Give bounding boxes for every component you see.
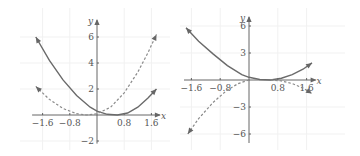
x-tick-label: −0.8 bbox=[59, 118, 81, 128]
y-tick-label: −3 bbox=[233, 102, 247, 112]
left-graph: xy−1.6−0.80.81.6642−2 bbox=[20, 8, 170, 150]
y-tick-label: −6 bbox=[233, 129, 247, 139]
y-tick-label: 6 bbox=[240, 21, 246, 31]
y-axis-arrow-icon bbox=[94, 19, 99, 25]
x-axis-label: x bbox=[161, 111, 166, 121]
y-axis-arrow-icon bbox=[246, 16, 251, 22]
right-graph: xy−1.6−0.80.81.663−3−6 bbox=[180, 8, 345, 150]
y-tick-label: 4 bbox=[88, 58, 94, 68]
x-axis-label: x bbox=[317, 76, 322, 86]
series-dashed-curve bbox=[36, 34, 157, 115]
chart-canvas: xy−1.6−0.80.81.6642−2 xy−1.6−0.80.81.663… bbox=[0, 0, 360, 156]
x-tick-label: 0.8 bbox=[117, 118, 132, 128]
y-tick-label: 6 bbox=[88, 32, 94, 42]
x-tick-label: −1.6 bbox=[180, 83, 202, 93]
y-axis-label: y bbox=[87, 16, 94, 26]
x-tick-label: −1.6 bbox=[32, 118, 54, 128]
series-dashed-end-arrow-icon bbox=[152, 34, 157, 41]
series-dashed-left-start-arrow-icon bbox=[188, 128, 194, 134]
x-tick-label: 1.6 bbox=[144, 118, 159, 128]
y-tick-label: 2 bbox=[88, 84, 94, 94]
x-tick-label: −0.8 bbox=[209, 83, 231, 93]
y-tick-label: 3 bbox=[240, 48, 246, 58]
x-tick-label: 0.8 bbox=[271, 83, 286, 93]
y-tick-label: −2 bbox=[81, 136, 94, 146]
series-solid-curve bbox=[36, 37, 157, 115]
